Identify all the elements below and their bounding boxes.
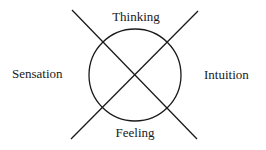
- label-intuition: Intuition: [204, 67, 249, 82]
- label-thinking: Thinking: [112, 9, 160, 24]
- label-feeling: Feeling: [116, 125, 155, 140]
- function-diagram: Thinking Feeling Sensation Intuition: [0, 0, 266, 150]
- label-sensation: Sensation: [12, 66, 63, 81]
